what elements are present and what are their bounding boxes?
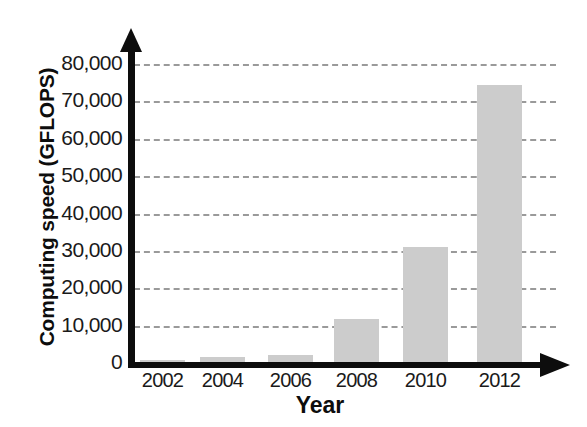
x-axis-line — [128, 362, 542, 368]
x-tick-label: 2008 — [322, 369, 392, 392]
bar-chart: 010,00020,00030,00040,00050,00060,00070,… — [0, 0, 587, 427]
x-axis-title: Year — [230, 392, 410, 419]
bar-2012 — [477, 85, 522, 363]
x-tick-label: 2004 — [188, 369, 258, 392]
y-axis-line — [128, 48, 135, 365]
gridline — [134, 64, 556, 66]
bar-2008 — [334, 319, 379, 363]
x-axis-arrow-icon — [540, 353, 570, 377]
y-axis-arrow-icon — [120, 28, 142, 52]
x-tick-label: 2012 — [465, 369, 535, 392]
bar-2010 — [403, 247, 448, 363]
x-tick-label: 2006 — [256, 369, 326, 392]
x-tick-label: 2010 — [391, 369, 461, 392]
y-axis-title: Computing speed (GFLOPS) — [32, 17, 62, 397]
